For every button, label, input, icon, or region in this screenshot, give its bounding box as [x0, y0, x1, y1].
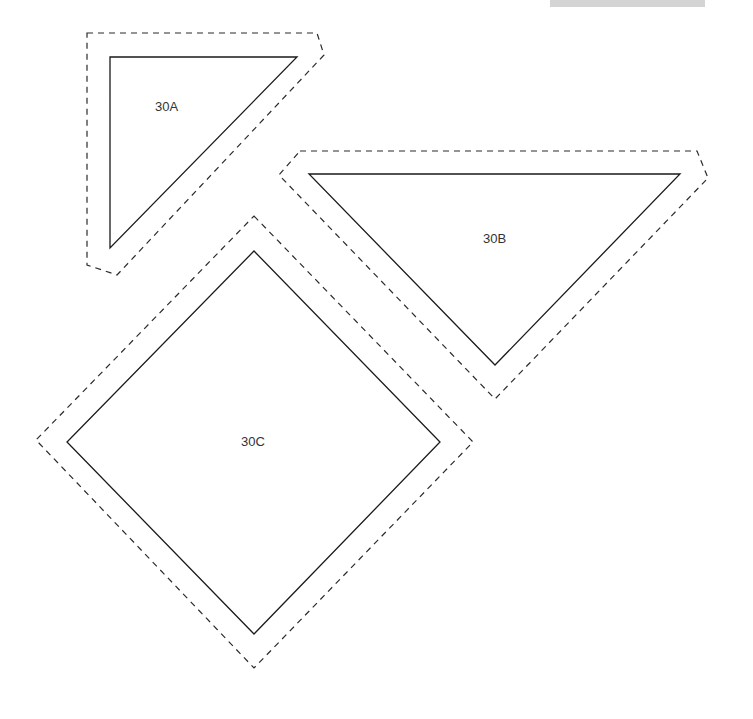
piece-30b: 30B	[279, 151, 708, 399]
piece-30a: 30A	[87, 33, 324, 275]
pattern-diagram: 30A 30B 30C	[0, 0, 753, 719]
piece-30b-label: 30B	[483, 231, 506, 246]
piece-30a-label: 30A	[155, 99, 178, 114]
piece-30a-seam-allowance	[87, 33, 324, 275]
piece-30c-label: 30C	[241, 434, 265, 449]
piece-30c: 30C	[36, 216, 473, 668]
piece-30a-outline	[110, 57, 297, 248]
piece-30b-seam-allowance	[279, 151, 708, 399]
piece-30b-outline	[309, 174, 680, 365]
